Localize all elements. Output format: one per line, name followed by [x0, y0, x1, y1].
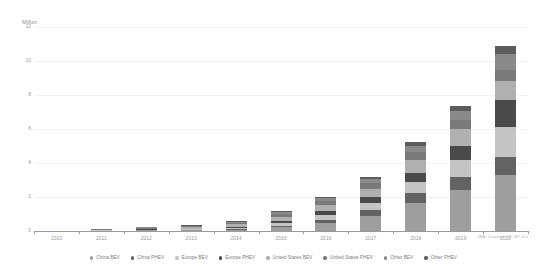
x-tick-label-2013: 2013	[186, 235, 197, 241]
bar-segment	[495, 70, 516, 80]
bar-segment	[450, 111, 471, 120]
attribution-text: IEA. Licence: CC BY 4.0	[478, 234, 528, 239]
bar-segment	[495, 81, 516, 101]
x-tick-label-2017: 2017	[365, 235, 376, 241]
bar-2018[interactable]	[405, 142, 426, 231]
legend-item-3[interactable]: Europe PHEV	[219, 255, 255, 261]
legend-label: Other PHEV	[431, 255, 457, 261]
x-tick-mark	[528, 231, 529, 234]
bar-segment	[450, 177, 471, 191]
bar-segment	[450, 160, 471, 176]
x-tick-mark	[214, 231, 215, 234]
plot-area: 024681012	[34, 27, 528, 231]
x-tick-mark	[303, 231, 304, 234]
bar-segment	[495, 54, 516, 70]
bar-group	[34, 27, 528, 231]
legend-label: China PHEV	[137, 255, 164, 261]
y-tick-label: 4	[22, 159, 31, 166]
x-tick-label-2011: 2011	[96, 235, 107, 241]
bar-2017[interactable]	[360, 177, 381, 231]
bar-segment	[405, 160, 426, 173]
bar-segment	[405, 173, 426, 183]
x-tick-mark	[79, 231, 80, 234]
bar-segment	[450, 190, 471, 231]
bar-2014[interactable]	[226, 221, 247, 231]
x-tick-mark	[259, 231, 260, 234]
legend-item-7[interactable]: Other PHEV	[424, 255, 457, 261]
bar-segment	[495, 175, 516, 231]
chart-container: Million 024681012 2010201120122013201420…	[0, 0, 547, 270]
bar-segment	[315, 223, 336, 232]
legend-item-4[interactable]: United States BEV	[266, 255, 312, 261]
legend-item-5[interactable]: United States PHEV	[323, 255, 373, 261]
x-tick-mark	[438, 231, 439, 234]
legend-label: United States BEV	[273, 255, 313, 261]
y-tick-label: 12	[22, 23, 31, 30]
y-tick-label: 6	[22, 125, 31, 132]
legend-swatch-icon	[266, 256, 269, 259]
y-tick-label: 2	[22, 193, 31, 200]
bar-segment	[360, 216, 381, 231]
bar-segment	[450, 129, 471, 146]
legend-label: Other BEV	[390, 255, 413, 261]
bar-segment	[405, 152, 426, 160]
x-tick-label-2012: 2012	[141, 235, 152, 241]
legend-item-6[interactable]: Other BEV	[384, 255, 413, 261]
chart-legend: China BEVChina PHEVEurope BEVEurope PHEV…	[0, 255, 547, 261]
legend-swatch-icon	[323, 256, 326, 259]
legend-label: Europe BEV	[182, 255, 208, 261]
x-tick-label-2016: 2016	[320, 235, 331, 241]
bar-segment	[405, 193, 426, 203]
legend-item-2[interactable]: Europe BEV	[175, 255, 208, 261]
bar-segment	[405, 182, 426, 193]
legend-item-1[interactable]: China PHEV	[131, 255, 164, 261]
bar-segment	[495, 100, 516, 127]
y-tick-label: 0	[22, 227, 31, 234]
x-tick-label-2019: 2019	[455, 235, 466, 241]
legend-swatch-icon	[90, 256, 93, 259]
y-tick-label: 10	[22, 57, 31, 64]
legend-item-0[interactable]: China BEV	[90, 255, 120, 261]
x-tick-mark	[34, 231, 35, 234]
legend-label: China BEV	[96, 255, 119, 261]
x-tick-label-2015: 2015	[275, 235, 286, 241]
legend-swatch-icon	[424, 256, 427, 259]
legend-swatch-icon	[175, 256, 178, 259]
x-tick-label-2018: 2018	[410, 235, 421, 241]
y-tick-label: 8	[22, 91, 31, 98]
bar-2020[interactable]	[495, 46, 516, 231]
legend-swatch-icon	[131, 256, 134, 259]
bar-segment	[450, 146, 471, 160]
legend-swatch-icon	[384, 256, 387, 259]
x-tick-mark	[348, 231, 349, 234]
x-axis: 2010201120122013201420152016201720182019…	[34, 231, 528, 247]
legend-swatch-icon	[219, 256, 222, 259]
bar-segment	[495, 157, 516, 175]
x-tick-label-2014: 2014	[231, 235, 242, 241]
x-tick-mark	[124, 231, 125, 234]
bar-segment	[450, 120, 471, 129]
bar-segment	[360, 189, 381, 197]
bar-segment	[495, 127, 516, 157]
bar-segment	[405, 203, 426, 231]
bar-segment	[495, 46, 516, 55]
x-tick-mark	[169, 231, 170, 234]
x-tick-label-2010: 2010	[51, 235, 62, 241]
legend-label: Europe PHEV	[225, 255, 255, 261]
x-tick-mark	[393, 231, 394, 234]
bar-2016[interactable]	[315, 197, 336, 231]
bar-2015[interactable]	[271, 211, 292, 231]
legend-label: United States PHEV	[330, 255, 373, 261]
bar-2019[interactable]	[450, 106, 471, 231]
bar-segment	[360, 203, 381, 210]
